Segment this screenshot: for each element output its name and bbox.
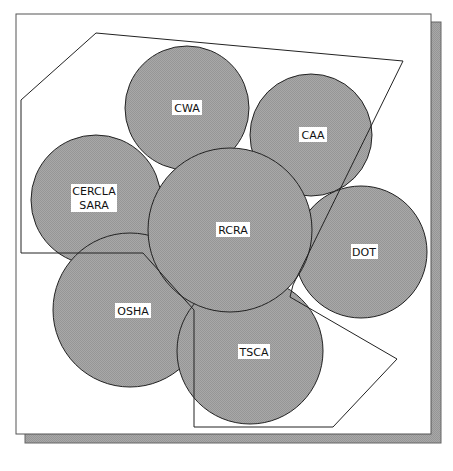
label-cercla-sara: CERCLA SARA (71, 184, 117, 212)
label-tsca: TSCA (238, 344, 270, 359)
label-sara-text: SARA (79, 199, 109, 212)
label-cercla-text: CERCLA (72, 185, 116, 198)
regulations-diagram: CWA CAA CERCLA SARA RCRA DOT OSHA TSCA (0, 0, 453, 471)
label-cwa: CWA (172, 100, 202, 115)
label-rcra-text: RCRA (218, 224, 248, 237)
label-tsca-text: TSCA (239, 346, 269, 359)
label-cwa-text: CWA (174, 102, 200, 115)
label-rcra: RCRA (216, 222, 250, 237)
label-dot: DOT (351, 244, 378, 259)
label-osha: OSHA (115, 303, 151, 318)
label-caa-text: CAA (301, 129, 325, 142)
label-osha-text: OSHA (117, 305, 149, 318)
label-caa: CAA (299, 127, 327, 142)
label-dot-text: DOT (352, 246, 376, 259)
